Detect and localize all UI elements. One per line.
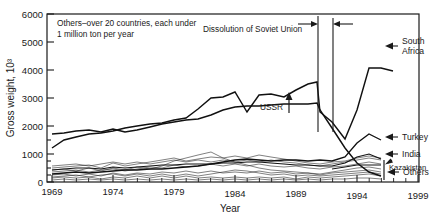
series-label-south-africa-line2: Africa: [402, 46, 424, 56]
dissolution-annotation: Dissolution of Soviet Union: [203, 24, 303, 34]
y-axis-title: Gross weight, 10³: [5, 58, 16, 137]
chart-container: 6000 5000 4000 3000 2000 1000 0 Gross we…: [0, 0, 434, 218]
ussr-annotation: USSR: [260, 102, 283, 112]
x-tick-label-1969: 1969: [41, 186, 62, 197]
x-tick-label-1979: 1979: [163, 186, 184, 197]
x-axis-title: Year: [220, 203, 241, 214]
series-label-india: India: [402, 149, 421, 159]
x-tick-label-1994: 1994: [346, 190, 367, 201]
others-note-line-2: 1 million ton per year: [57, 29, 134, 39]
x-tick-label-1984: 1984: [224, 188, 245, 199]
x-tick-label-1989: 1989: [285, 188, 306, 199]
y-tick-label-4000: 4000: [22, 65, 43, 76]
y-tick-label-5000: 5000: [22, 37, 43, 48]
x-axis-tick-labels: 1969 1974 1979 1984 1989 1994 1999: [41, 186, 428, 201]
y-tick-label-3000: 3000: [22, 93, 43, 104]
y-tick-label-6000: 6000: [22, 9, 43, 20]
series-label-south-africa-line1: South: [402, 36, 425, 46]
others-note-line-1: Others–over 20 countries, each under: [57, 18, 197, 28]
y-tick-label-2000: 2000: [22, 121, 43, 132]
series-label-turkey: Turkey: [402, 132, 429, 142]
gross-weight-line-chart: 6000 5000 4000 3000 2000 1000 0 Gross we…: [0, 0, 434, 218]
x-tick-label-1974: 1974: [102, 186, 123, 197]
y-axis-tick-labels: 6000 5000 4000 3000 2000 1000 0: [22, 9, 43, 188]
series-label-others: Others: [403, 167, 429, 177]
y-tick-label-1000: 1000: [22, 149, 43, 160]
x-tick-label-1999: 1999: [407, 190, 428, 201]
